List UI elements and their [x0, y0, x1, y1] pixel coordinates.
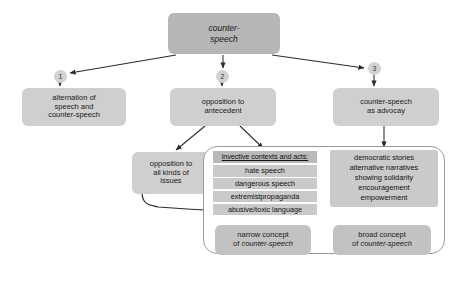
advocacy-item[interactable]: encouragement: [330, 183, 438, 193]
node-opposition-all-kinds[interactable]: opposition to all kinds of issues: [132, 152, 210, 194]
allkinds-line-3: issues: [160, 177, 181, 186]
advocacy-item[interactable]: empowerment: [330, 193, 438, 203]
broad-line-2-term: counter-speech: [360, 239, 412, 248]
edge-opposition-to-invective: [240, 126, 263, 148]
advocacy-item[interactable]: alternative narratives: [330, 163, 438, 173]
invective-item[interactable]: abusive/toxic language: [213, 204, 317, 215]
alternation-line-3: counter-speech: [48, 111, 100, 120]
root-line-2: speech: [210, 34, 237, 44]
invective-list-header: invective contexts and acts:: [213, 151, 317, 163]
invective-item[interactable]: extremistpropaganda: [213, 191, 317, 202]
node-opposition-to-antecedent[interactable]: opposition to antecedent: [170, 88, 276, 126]
node-counter-speech-root[interactable]: counter- speech: [168, 13, 280, 54]
root-line-1: counter-: [208, 23, 239, 33]
node-counter-speech-as-advocacy[interactable]: counter-speech as advocay: [333, 88, 439, 126]
branch-marker-3: 3: [368, 62, 381, 75]
branch-marker-1: 1: [54, 70, 67, 83]
narrow-line-2-term: counter-speech: [241, 239, 293, 248]
invective-item[interactable]: dangerous speech: [213, 178, 317, 189]
edge-root-to-advocacy: [272, 55, 364, 68]
edge-root-to-alternation: [70, 55, 176, 73]
opposition-line-2: antecedent: [204, 107, 241, 116]
diagram-canvas: counter- speech 1 2 3 alternation of spe…: [0, 0, 452, 282]
node-broad-concept[interactable]: broad concept of counter-speech: [333, 225, 431, 255]
branch-marker-2: 2: [216, 70, 229, 83]
invective-item[interactable]: hate speech: [213, 165, 317, 176]
advocacy-item[interactable]: showing solidarity: [330, 173, 438, 183]
advocacy-acts-list: democratic stories alternative narrative…: [330, 150, 438, 207]
broad-line-2: of counter-speech: [352, 240, 412, 249]
advocacy-item[interactable]: democratic stories: [330, 153, 438, 163]
edge-opposition-to-allkinds: [176, 126, 205, 150]
narrow-line-2: of counter-speech: [233, 240, 293, 249]
node-alternation[interactable]: alternation of speech and counter-speech: [22, 88, 126, 126]
node-narrow-concept[interactable]: narrow concept of counter-speech: [215, 225, 311, 255]
invective-list: invective contexts and acts: hate speech…: [213, 151, 317, 216]
advocacy-line-2: as advocay: [367, 107, 405, 116]
